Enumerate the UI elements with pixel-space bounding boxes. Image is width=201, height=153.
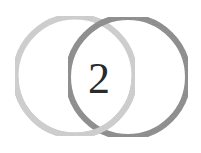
right-ring <box>68 17 188 137</box>
interlocking-rings-logo: 2 <box>0 0 201 153</box>
numeral-label: 2 <box>88 54 110 103</box>
